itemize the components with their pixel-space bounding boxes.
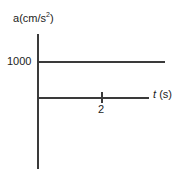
x-axis-tick-2 xyxy=(101,92,103,103)
x-axis-label-unit: (s) xyxy=(159,88,172,100)
acceleration-time-graph: a(cm/s2) 1000 t (s) 2 xyxy=(0,0,181,169)
x-axis-label-symbol: t xyxy=(153,88,156,100)
y-axis-label-unit-close: ) xyxy=(50,12,54,24)
x-tick-label-2: 2 xyxy=(98,104,104,115)
y-tick-label-1000: 1000 xyxy=(7,56,31,67)
acceleration-level-line xyxy=(37,61,165,63)
y-axis-label: a(cm/s2) xyxy=(13,13,54,24)
y-axis-label-unit: (cm/s xyxy=(19,12,46,24)
horizontal-axis xyxy=(37,97,149,99)
x-axis-label: t (s) xyxy=(153,89,172,100)
vertical-axis xyxy=(37,34,39,169)
